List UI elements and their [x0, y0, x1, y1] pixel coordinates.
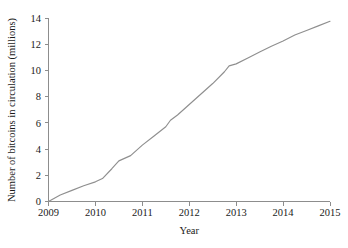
y-tick-label-4: 4	[36, 144, 42, 155]
x-axis-title: Year	[180, 225, 200, 236]
x-axis-ticks	[49, 202, 331, 206]
y-axis-ticks	[45, 18, 49, 202]
x-tick-label-2010: 2010	[85, 207, 106, 218]
x-tick-label-2014: 2014	[273, 207, 295, 218]
x-axis-tick-labels: 2009 2010 2011 2012 2013 2014 2015	[38, 207, 341, 218]
y-tick-label-10: 10	[31, 65, 42, 76]
x-tick-label-2015: 2015	[320, 207, 341, 218]
x-tick-label-2013: 2013	[226, 207, 247, 218]
x-tick-label-2012: 2012	[179, 207, 200, 218]
y-tick-label-2: 2	[36, 170, 41, 181]
line-chart: 0 2 4 6 8 10 12 14 2009 2010 2011 2012 2…	[0, 0, 348, 248]
y-axis-tick-labels: 0 2 4 6 8 10 12 14	[31, 13, 42, 208]
y-tick-label-12: 12	[31, 39, 42, 50]
y-axis-title: Number of bitcoins in circulation (milli…	[6, 17, 18, 202]
y-tick-label-8: 8	[36, 91, 41, 102]
y-tick-label-0: 0	[36, 196, 41, 207]
series-line-bitcoins	[49, 21, 331, 201]
y-tick-label-14: 14	[31, 13, 42, 24]
x-tick-label-2009: 2009	[38, 207, 59, 218]
x-tick-label-2011: 2011	[132, 207, 153, 218]
y-tick-label-6: 6	[36, 118, 41, 129]
chart-figure: 0 2 4 6 8 10 12 14 2009 2010 2011 2012 2…	[0, 0, 348, 248]
